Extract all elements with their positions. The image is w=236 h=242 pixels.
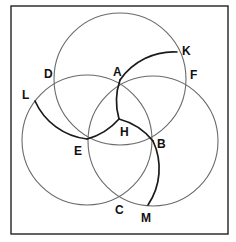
label-M: M [141,211,151,225]
point-labels-group: A B C D E F H K L M [22,44,197,225]
label-C: C [115,203,124,217]
bold-arcs-group [35,52,177,205]
geometry-figure: A B C D E F H K L M [0,0,236,242]
label-H: H [120,125,129,139]
label-E: E [74,144,82,158]
label-D: D [44,67,53,81]
label-A: A [113,65,122,79]
label-L: L [22,88,29,102]
circles-group [22,13,218,206]
left-circle [22,75,152,205]
label-K: K [182,44,191,58]
label-B: B [157,137,166,151]
arc-L-E [35,101,87,139]
label-F: F [190,68,197,82]
arc-E-H [87,119,119,139]
